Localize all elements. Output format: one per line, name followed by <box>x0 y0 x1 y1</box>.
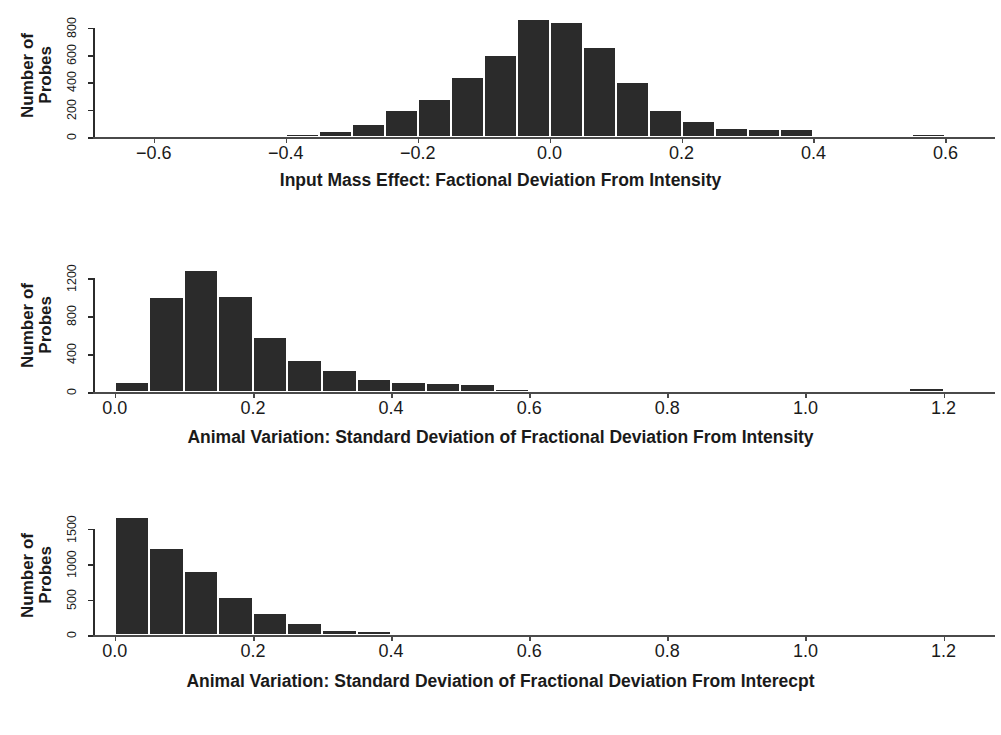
histogram-bar <box>583 47 616 137</box>
x-axis-line <box>93 137 995 139</box>
histogram-bar <box>357 379 392 392</box>
y-tick-label: 1200 <box>66 256 79 300</box>
y-axis-title-line2: Probes <box>37 296 54 354</box>
y-tick-label: 0 <box>66 370 79 414</box>
histogram-bar <box>391 633 426 636</box>
histogram-bar <box>879 135 912 138</box>
histogram-bar <box>529 390 564 393</box>
histogram-bar <box>912 134 945 137</box>
histogram-bar <box>517 19 550 137</box>
y-tick-label: 400 <box>66 332 79 376</box>
histogram-bar <box>715 128 748 137</box>
histogram-bar <box>352 124 385 137</box>
histogram-figure: Number of Probes 0200400600800−0.6−0.4−0… <box>0 0 1001 735</box>
histogram-bar <box>357 631 392 635</box>
x-tick-label: 0.2 <box>240 398 265 419</box>
histogram-bar <box>451 77 484 137</box>
y-axis-title-line1: Number of <box>19 33 36 118</box>
y-tick-mark <box>88 55 93 57</box>
histogram-bar <box>115 517 150 635</box>
histogram-bar <box>460 384 495 392</box>
histogram-bar <box>115 382 150 392</box>
histogram-bar <box>149 548 184 635</box>
x-tick-label: 0.6 <box>517 398 542 419</box>
histogram-bar <box>426 633 461 636</box>
x-tick-label: 1.2 <box>931 398 956 419</box>
histogram-bar <box>846 135 879 138</box>
histogram-bar <box>649 110 682 137</box>
y-axis-line <box>93 28 95 137</box>
x-tick-label: 0.4 <box>379 398 404 419</box>
histogram-bar <box>495 389 530 392</box>
panel-animal-variation-intercept: Number of Probes 0500100015000.00.20.40.… <box>0 495 1001 735</box>
y-tick-mark <box>88 82 93 84</box>
panel-input-mass-effect: Number of Probes 0200400600800−0.6−0.4−0… <box>0 0 1001 245</box>
histogram-bar <box>484 55 517 137</box>
x-tick-label: 0.6 <box>517 641 542 662</box>
histogram-bar <box>287 623 322 635</box>
histogram-bar <box>909 388 944 392</box>
histogram-bar <box>218 296 253 392</box>
x-tick-label: 0.4 <box>379 641 404 662</box>
y-tick-mark <box>88 354 93 356</box>
y-tick-label: 800 <box>66 6 79 50</box>
x-tick-label: 0.6 <box>933 143 958 164</box>
y-axis-title: Number of Probes <box>8 0 64 150</box>
x-axis-title: Input Mass Effect: Factional Deviation F… <box>0 170 1001 191</box>
y-tick-mark <box>88 110 93 112</box>
y-tick-mark <box>88 564 93 566</box>
y-axis-title-line1: Number of <box>19 283 36 368</box>
y-axis-title-line1: Number of <box>19 533 36 618</box>
x-tick-label: −0.2 <box>400 143 436 164</box>
x-axis-line <box>93 392 995 394</box>
histogram-bar <box>682 121 715 137</box>
y-axis-line <box>93 529 95 635</box>
histogram-bar <box>748 129 781 137</box>
histogram-bar <box>184 270 219 392</box>
histogram-bar <box>426 383 461 392</box>
x-tick-label: 0.0 <box>102 398 127 419</box>
x-axis-title: Animal Variation: Standard Deviation of … <box>0 671 1001 692</box>
x-tick-label: 1.0 <box>793 641 818 662</box>
histogram-bar <box>564 390 599 393</box>
y-tick-mark <box>88 600 93 602</box>
x-tick-label: 0.2 <box>669 143 694 164</box>
x-tick-label: 0.2 <box>240 641 265 662</box>
x-tick-label: 0.8 <box>655 641 680 662</box>
x-tick-label: 1.0 <box>793 398 818 419</box>
histogram-bar <box>319 131 352 137</box>
x-tick-label: 0.0 <box>102 641 127 662</box>
histogram-bar <box>813 135 846 138</box>
histogram-bar <box>391 382 426 392</box>
histogram-bar <box>322 630 357 635</box>
x-tick-label: 1.2 <box>931 641 956 662</box>
y-axis-line <box>93 278 95 392</box>
histogram-bar <box>286 134 319 137</box>
x-axis-line <box>93 635 995 637</box>
histogram-bar <box>184 571 219 635</box>
histogram-bar <box>287 360 322 392</box>
y-axis-title-line2: Probes <box>37 546 54 604</box>
y-tick-mark <box>88 278 93 280</box>
histogram-bar <box>149 297 184 392</box>
x-tick-label: 0.8 <box>655 398 680 419</box>
y-tick-label: 800 <box>66 294 79 338</box>
y-tick-mark <box>88 529 93 531</box>
y-tick-mark <box>88 28 93 30</box>
histogram-bar <box>218 597 253 635</box>
x-tick-label: −0.6 <box>136 143 172 164</box>
panel-animal-variation-intensity: Number of Probes 040080012000.00.20.40.6… <box>0 245 1001 495</box>
histogram-bar <box>253 337 288 392</box>
histogram-bar <box>322 370 357 392</box>
histogram-bar <box>550 22 583 137</box>
y-tick-mark <box>88 316 93 318</box>
y-axis-title: Number of Probes <box>8 250 64 400</box>
x-tick-label: −0.4 <box>268 143 304 164</box>
histogram-bar <box>253 613 288 635</box>
histogram-bar <box>418 99 451 137</box>
y-axis-title: Number of Probes <box>8 500 64 650</box>
y-axis-title-line2: Probes <box>37 46 54 104</box>
y-tick-label: 1500 <box>66 507 79 551</box>
histogram-bar <box>780 129 813 137</box>
histogram-bar <box>385 110 418 137</box>
